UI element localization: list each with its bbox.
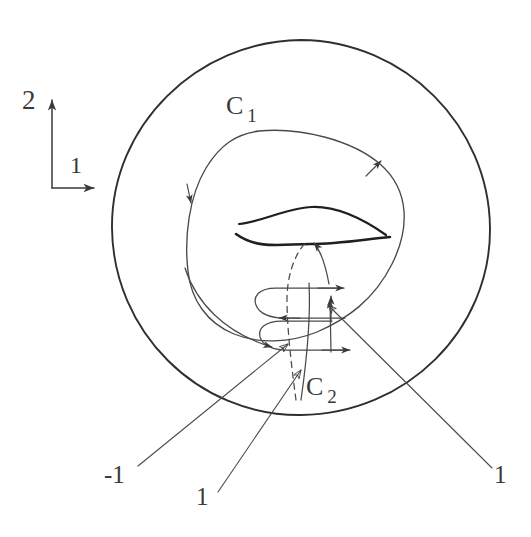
- curve-label-c2-base: C: [306, 372, 323, 401]
- lens-upper-arc: [239, 207, 386, 235]
- coil-inflow-swoop: [185, 268, 272, 347]
- axis-label-2: 2: [22, 87, 36, 114]
- label-minus-one: -1: [104, 462, 125, 487]
- outer-circle: [112, 40, 490, 415]
- figure-canvas: 2 1 C1 C2 -1 1 1: [0, 0, 531, 537]
- axis-label-1: 1: [70, 153, 82, 177]
- curve-label-c2: C2: [306, 374, 333, 400]
- lens-lower-arc: [236, 234, 390, 245]
- leader-one-right: [328, 305, 492, 468]
- curve-c1: [187, 130, 405, 341]
- curve-label-c1-base: C: [226, 91, 243, 120]
- lens-shape: [236, 207, 390, 245]
- coil-turn-lower: [260, 321, 346, 350]
- label-one-right: 1: [494, 462, 507, 487]
- curve-c2-coil: [185, 268, 350, 350]
- curve-label-c1-subscript: 1: [247, 105, 257, 126]
- coil-axis-up-arrow-3: [314, 243, 329, 284]
- diagram-svg: [0, 0, 531, 537]
- curve-label-c2-subscript: 2: [327, 386, 337, 407]
- leader-one-bottom: [218, 370, 301, 492]
- curve-c1-arrow-left: [187, 184, 191, 203]
- curve-c1-arrow-right: [366, 161, 381, 176]
- leader-minus-one: [138, 344, 288, 466]
- curve-c1-path: [187, 130, 405, 341]
- label-one-bottom: 1: [196, 484, 209, 509]
- curve-label-c1: C1: [226, 93, 253, 119]
